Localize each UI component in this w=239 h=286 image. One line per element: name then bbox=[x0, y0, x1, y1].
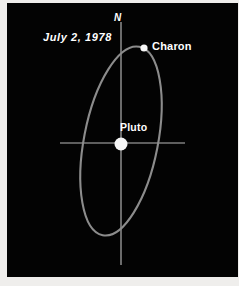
observation-date-label: July 2, 1978 bbox=[43, 32, 112, 43]
pluto-body-marker bbox=[115, 138, 128, 151]
orbit-diagram-figure: N July 2, 1978 Charon Pluto bbox=[0, 0, 239, 286]
orbit-diagram-canvas bbox=[0, 0, 239, 286]
charon-label: Charon bbox=[152, 41, 192, 52]
charon-body-marker bbox=[140, 44, 147, 51]
north-axis-label: N bbox=[114, 13, 121, 23]
pluto-label: Pluto bbox=[120, 122, 147, 133]
